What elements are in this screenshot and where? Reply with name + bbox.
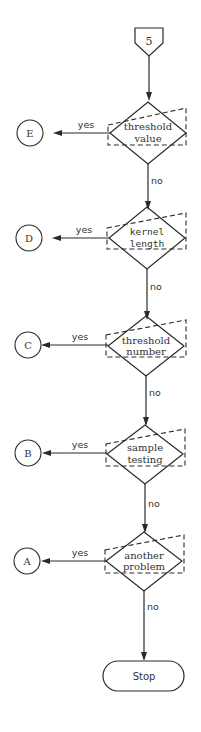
arrowhead-icon: [41, 342, 50, 348]
decision-text: threshold: [124, 121, 173, 132]
connector-circle-D: D: [16, 225, 42, 251]
arrowhead-icon: [146, 92, 152, 101]
decision-text: problem: [123, 561, 166, 572]
terminal-stop: Stop: [103, 661, 184, 691]
connector-label: A: [22, 556, 31, 567]
connector-label: E: [26, 128, 33, 139]
connector-label: C: [24, 340, 32, 351]
connector-circle-C: C: [15, 332, 41, 358]
decision-another-problem: another problem: [105, 532, 184, 591]
arrowhead-icon: [142, 524, 148, 533]
no-label: no: [151, 175, 163, 186]
connector-label: 5: [146, 35, 153, 48]
connector-label: D: [25, 233, 33, 244]
decision-text: sample: [127, 442, 163, 453]
arrowhead-icon: [42, 450, 51, 456]
connector-circle-A: A: [14, 548, 40, 574]
yes-label: yes: [72, 547, 88, 558]
yes-label: yes: [76, 224, 92, 235]
decision-sample-testing: sample testing: [106, 425, 185, 484]
no-label: no: [149, 387, 161, 398]
off-page-connector-5: 5: [135, 28, 163, 56]
flowchart-canvas: 5 threshold value yes E no kernel length…: [0, 0, 201, 732]
yes-label: yes: [72, 331, 88, 342]
decision-text: kernel: [130, 226, 164, 237]
connector-label: B: [24, 448, 31, 459]
connector-circle-B: B: [15, 440, 41, 466]
no-label: no: [150, 281, 162, 292]
arrowhead-icon: [52, 235, 61, 241]
connector-circle-E: E: [17, 120, 43, 146]
arrowhead-icon: [53, 130, 62, 136]
arrowhead-icon: [41, 558, 50, 564]
decision-text: value: [133, 133, 161, 144]
arrowhead-icon: [143, 417, 149, 426]
decision-threshold-number: threshold number: [106, 316, 186, 376]
yes-label: yes: [78, 119, 94, 130]
no-label: no: [147, 601, 159, 612]
yes-label: yes: [72, 439, 88, 450]
arrowhead-icon: [141, 652, 147, 661]
decision-text: testing: [127, 454, 163, 465]
decision-text: length: [130, 238, 164, 249]
decision-text: number: [126, 346, 166, 357]
decision-text: another: [124, 550, 164, 561]
terminal-label: Stop: [133, 671, 156, 682]
decision-text: threshold: [122, 335, 171, 346]
no-label: no: [148, 498, 160, 509]
decision-kernel-length: kernel length: [107, 207, 186, 269]
decision-threshold-value: threshold value: [108, 102, 186, 164]
